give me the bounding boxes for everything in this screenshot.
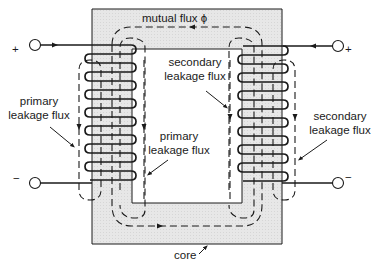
primary-minus-terminal[interactable]	[30, 178, 41, 189]
mutual-flux-label: mutual flux ϕ	[142, 12, 207, 24]
primary-leakage-outer-pointer	[50, 127, 73, 146]
primary-plus-sign: +	[12, 43, 19, 55]
secondary-leakage-inner-label-1: secondary	[168, 56, 221, 68]
primary-leakage-inner-label-2: leakage flux	[148, 144, 210, 156]
secondary-minus-terminal[interactable]	[333, 178, 344, 189]
secondary-current-arrow	[310, 44, 316, 49]
secondary-minus-sign: −	[345, 171, 352, 183]
primary-leakage-inner-label-1: primary	[160, 130, 199, 142]
primary-leakage-outer-label-2: leakage flux	[8, 109, 70, 121]
primary-leakage-outer-label-1: primary	[20, 95, 59, 107]
core-pointer	[199, 247, 206, 254]
secondary-plus-sign: +	[345, 43, 352, 55]
primary-plus-terminal[interactable]	[30, 40, 41, 51]
primary-current-arrow	[52, 43, 58, 48]
primary-minus-sign: −	[13, 172, 20, 184]
secondary-leakage-outer-label-2: leakage flux	[309, 124, 371, 136]
secondary-leakage-outer-pointer	[300, 140, 327, 159]
primary-leakage-inner-pointer	[149, 160, 168, 174]
secondary-plus-terminal[interactable]	[333, 41, 344, 52]
core-label: core	[174, 249, 196, 261]
secondary-leakage-inner-pointer	[206, 91, 226, 107]
transformer-diagram: + − + − mutual flux ϕ secondary leakage …	[0, 0, 373, 264]
secondary-leakage-inner-label-2: leakage flux	[164, 70, 226, 82]
secondary-leakage-outer-label-1: secondary	[313, 110, 366, 122]
